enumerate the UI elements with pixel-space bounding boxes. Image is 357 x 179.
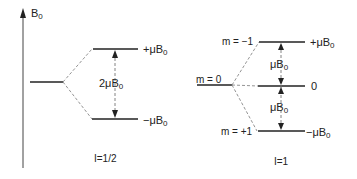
arrow-up-icon [112, 50, 118, 58]
label-text: +μB [310, 36, 330, 48]
arrow-up-icon [278, 43, 284, 50]
energy-level-diagram [0, 0, 357, 179]
label-text: +μB [143, 43, 163, 55]
split-guide-upper [232, 42, 259, 85]
label-sub: 0 [284, 106, 288, 115]
arrow-down-icon [278, 78, 284, 85]
spin-one-lower-energy-label: −μB0 [306, 127, 331, 139]
spin-one-diagram [197, 42, 305, 131]
spin-half-caption: I=1/2 [94, 153, 117, 164]
b0-axis [20, 8, 26, 168]
spin-one-m-minus-one-label: m = −1 [222, 36, 253, 47]
spin-half-gap-label: 2μB0 [99, 78, 123, 90]
spin-one-middle-energy-label: 0 [311, 81, 317, 92]
split-guide-lower [232, 85, 257, 131]
spin-one-upper-gap-label: μB0 [270, 59, 288, 71]
label-sub: 0 [330, 41, 334, 50]
label-sub: 0 [119, 82, 123, 91]
label-sub: 0 [284, 63, 288, 72]
label-text: μB [270, 101, 284, 113]
label-sub: 0 [163, 119, 167, 128]
spin-one-upper-energy-label: +μB0 [310, 37, 335, 49]
axis-label-sub: 0 [38, 12, 42, 21]
label-text: 2μB [99, 77, 119, 89]
axis-arrow-icon [20, 8, 26, 18]
arrow-up-icon [278, 87, 284, 94]
split-guide-lower [63, 82, 92, 119]
b0-axis-label: B0 [31, 8, 43, 20]
arrow-down-icon [112, 110, 118, 118]
label-text: μB [270, 58, 284, 70]
label-sub: 0 [163, 48, 167, 57]
label-sub: 0 [326, 131, 330, 140]
spin-half-upper-energy-label: +μB0 [143, 44, 168, 56]
spin-one-lower-gap-label: μB0 [270, 102, 288, 114]
label-text: −μB [306, 126, 326, 138]
split-guide-middle [232, 85, 258, 86]
spin-one-m-plus-one-label: m = +1 [221, 126, 252, 137]
arrow-down-icon [278, 123, 284, 130]
spin-one-m-zero-label: m = 0 [196, 74, 221, 85]
label-text: −μB [143, 114, 163, 126]
spin-half-lower-energy-label: −μB0 [143, 115, 168, 127]
split-guide-upper [63, 49, 92, 82]
spin-one-caption: I=1 [274, 156, 288, 167]
